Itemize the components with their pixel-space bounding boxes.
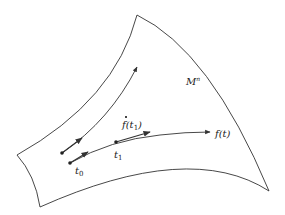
point-upper — [60, 151, 64, 155]
diagram-figure — [0, 0, 285, 215]
manifold-label-sup: n — [196, 75, 200, 82]
point-t1-label-sub: 1 — [118, 154, 122, 162]
tangent-label-open: (t — [126, 119, 134, 130]
upper-curve — [62, 67, 137, 153]
point-t0-label-sub: 0 — [79, 170, 83, 178]
curve-label: f(t) — [215, 129, 231, 139]
manifold-diagram: Mn f(t1) f(t) t1 t0 — [0, 0, 285, 215]
tangent-label-close: ) — [138, 119, 142, 130]
tangent-vector-t0 — [70, 152, 88, 163]
tangent-vector-upper — [62, 138, 82, 153]
tangent-dot — [125, 116, 127, 118]
manifold-boundary — [17, 15, 269, 207]
point-t1-label: t1 — [114, 150, 123, 162]
manifold-label: Mn — [186, 76, 200, 87]
point-t1 — [114, 140, 118, 144]
curve-f — [70, 132, 210, 163]
manifold-label-main: M — [186, 76, 196, 87]
tangent-label: f(t1) — [122, 120, 142, 132]
point-t0 — [68, 161, 72, 165]
point-t0-label: t0 — [75, 166, 84, 178]
